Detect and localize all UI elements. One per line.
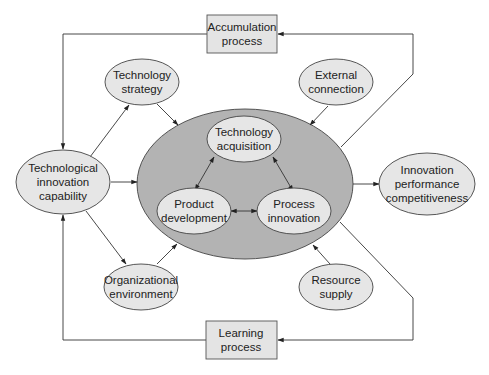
org-label-2: environment <box>109 288 173 300</box>
external-label-1: External <box>315 69 357 81</box>
tech-strategy-label-2: strategy <box>122 83 163 95</box>
learning-label-2: process <box>221 341 262 353</box>
learning-label-1: Learning <box>219 327 264 339</box>
capability-label-1: Technological <box>28 162 98 174</box>
organizational-environment-node: Organizational environment <box>104 264 178 310</box>
technology-acquisition-node: Technology acquisition <box>207 116 281 162</box>
product-label-2: development <box>161 212 228 224</box>
product-label-1: Product <box>174 198 214 210</box>
learning-process-box: Learning process <box>206 321 277 359</box>
accumulation-label-1: Accumulation <box>207 21 276 33</box>
tech-strategy-label-1: Technology <box>113 69 171 81</box>
performance-label-3: competitiveness <box>386 192 469 204</box>
technology-strategy-node: Technology strategy <box>105 59 179 105</box>
accumulation-label-2: process <box>222 35 263 47</box>
edge-capability-to-strategy <box>90 105 129 157</box>
resource-label-2: supply <box>319 288 352 300</box>
innovation-capability-diagram: Accumulation process Learning process Te… <box>0 0 489 375</box>
accumulation-process-box: Accumulation process <box>207 15 277 53</box>
resource-label-1: Resource <box>311 274 360 286</box>
product-development-node: Product development <box>157 188 231 234</box>
external-connection-node: External connection <box>299 59 373 105</box>
capability-label-3: capability <box>39 190 87 202</box>
external-label-2: connection <box>308 83 364 95</box>
process-label-2: innovation <box>268 212 320 224</box>
edge-org-to-core <box>157 244 177 264</box>
resource-supply-node: Resource supply <box>299 264 373 310</box>
acquisition-label-1: Technology <box>215 126 273 138</box>
edge-resource-to-core <box>313 245 330 264</box>
innovation-performance-node: Innovation performance competitiveness <box>379 153 475 215</box>
org-label-1: Organizational <box>104 274 178 286</box>
performance-label-1: Innovation <box>400 164 453 176</box>
edge-strategy-to-core <box>157 104 178 125</box>
acquisition-label-2: acquisition <box>217 140 271 152</box>
capability-label-2: innovation <box>37 176 89 188</box>
edge-external-to-core <box>310 106 328 125</box>
process-innovation-node: Process innovation <box>257 188 331 234</box>
performance-label-2: performance <box>395 178 460 190</box>
process-label-1: Process <box>273 198 315 210</box>
tech-innovation-capability-node: Technological innovation capability <box>16 150 110 214</box>
edge-capability-to-org <box>86 211 126 264</box>
